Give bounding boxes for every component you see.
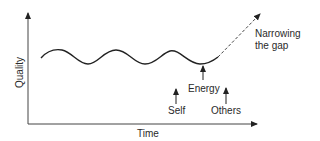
diagram-canvas (0, 0, 320, 141)
x-axis-label: Time (137, 128, 159, 139)
energy-label: Energy (188, 83, 220, 94)
trend-label-line1: Narrowing (255, 28, 301, 39)
quality-wave (41, 50, 218, 64)
self-label: Self (168, 105, 185, 116)
y-axis-label: Quality (14, 57, 25, 88)
others-label: Others (211, 105, 241, 116)
trend-label-line2: the gap (255, 40, 288, 51)
narrowing-gap-arrow (218, 14, 260, 57)
